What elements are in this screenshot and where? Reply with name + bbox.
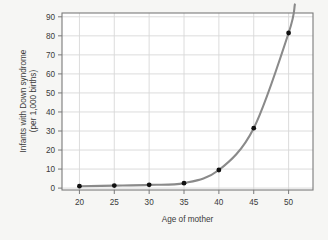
x-tick-label-20: 20	[75, 198, 85, 207]
data-point-age-45	[251, 126, 256, 131]
x-tick-label-25: 25	[110, 198, 120, 207]
data-point-age-35	[182, 181, 187, 186]
data-point-age-25	[112, 183, 117, 188]
y-tick-label-0: 0	[50, 184, 55, 193]
y-tick-label-80: 80	[46, 32, 56, 41]
y-axis-title-line2: (per 1,000 births)	[29, 70, 38, 133]
x-axis-title: Age of mother	[162, 215, 214, 224]
y-tick-label-60: 60	[46, 70, 56, 79]
x-tick-label-40: 40	[214, 198, 224, 207]
data-point-age-50	[286, 31, 291, 36]
chart-figure: 0102030405060708090 20253035404550 Age o…	[0, 0, 328, 240]
data-point-age-20	[77, 184, 82, 189]
y-axis-title-line1: Infants with Down syndrome	[19, 49, 28, 152]
data-point-age-30	[147, 182, 152, 187]
y-tick-label-50: 50	[46, 89, 56, 98]
x-tick-label-45: 45	[249, 198, 259, 207]
plot-area-background	[62, 13, 313, 190]
y-tick-label-70: 70	[46, 51, 56, 60]
x-tick-label-35: 35	[179, 198, 189, 207]
x-tick-label-50: 50	[284, 198, 294, 207]
y-tick-label-90: 90	[46, 13, 56, 22]
y-tick-label-30: 30	[46, 127, 56, 136]
chart-svg: 0102030405060708090 20253035404550 Age o…	[0, 0, 328, 240]
y-tick-label-20: 20	[46, 146, 56, 155]
data-point-age-40	[216, 168, 221, 173]
y-tick-label-10: 10	[46, 165, 56, 174]
y-tick-label-40: 40	[46, 108, 56, 117]
x-tick-label-30: 30	[145, 198, 155, 207]
